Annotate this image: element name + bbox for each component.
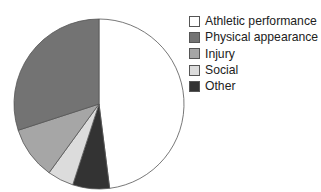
legend-label: Athletic performance xyxy=(205,15,317,27)
legend-label: Physical appearance xyxy=(205,31,318,43)
legend-item-other: Other xyxy=(189,78,318,94)
legend-swatch xyxy=(189,65,200,76)
pie-chart xyxy=(0,0,200,192)
legend-item-social: Social xyxy=(189,62,318,78)
pie-slice-athletic-performance xyxy=(99,19,184,188)
legend-swatch xyxy=(189,81,200,92)
legend-item-athletic-performance: Athletic performance xyxy=(189,13,318,29)
legend-item-injury: Injury xyxy=(189,46,318,62)
legend-label: Injury xyxy=(205,48,235,60)
legend-label: Social xyxy=(205,64,238,76)
legend-swatch xyxy=(189,32,200,43)
legend-swatch xyxy=(189,48,200,59)
legend-swatch xyxy=(189,16,200,27)
legend: Athletic performance Physical appearance… xyxy=(189,13,318,94)
legend-item-physical-appearance: Physical appearance xyxy=(189,29,318,45)
legend-label: Other xyxy=(205,80,235,92)
